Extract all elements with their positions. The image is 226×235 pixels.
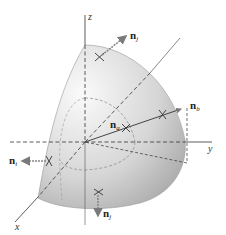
label-n-j-bottom: nj (103, 208, 111, 221)
radial-line-solid (150, 38, 180, 73)
label-n-i-left: ni (9, 155, 17, 168)
x-axis-solid (15, 197, 38, 222)
x-axis-label: x (15, 222, 19, 232)
z-axis-label: z (88, 12, 92, 22)
label-n-j-top: nj (130, 30, 138, 43)
label-n-b: nb (190, 100, 200, 113)
label-n-a: na (110, 119, 120, 132)
y-axis-label: y (208, 144, 212, 154)
